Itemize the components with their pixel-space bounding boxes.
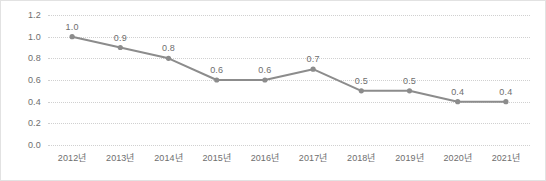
line-chart: 0.00.20.40.60.81.01.2 1.00.90.80.60.60.7…: [0, 0, 546, 181]
x-tick-label: 2016년: [251, 151, 280, 164]
x-tick-label: 2013년: [106, 151, 135, 164]
x-tick-label: 2021년: [492, 151, 521, 164]
data-point-marker: [214, 77, 219, 82]
data-point-marker: [311, 67, 316, 72]
x-tick-label: 2012년: [58, 151, 87, 164]
series-polyline: [72, 37, 506, 102]
data-point-marker: [455, 99, 460, 104]
y-tick-label: 0.8: [28, 53, 41, 63]
y-tick-label: 0.4: [28, 97, 41, 107]
y-axis: 0.00.20.40.60.81.01.2: [1, 15, 41, 145]
series-markers: [70, 34, 509, 104]
x-tick-label: 2014년: [154, 151, 183, 164]
data-point-marker: [359, 88, 364, 93]
y-tick-label: 0.6: [28, 75, 41, 85]
x-tick-label: 2017년: [299, 151, 328, 164]
y-tick-label: 0.0: [28, 140, 41, 150]
data-point-marker: [166, 56, 171, 61]
x-tick-label: 2018년: [347, 151, 376, 164]
data-point-marker: [262, 77, 267, 82]
data-point-marker: [70, 34, 75, 39]
y-tick-label: 1.2: [28, 10, 41, 20]
x-tick-label: 2015년: [202, 151, 231, 164]
y-tick-label: 1.0: [28, 32, 41, 42]
x-tick-label: 2020년: [443, 151, 472, 164]
x-tick-label: 2019년: [395, 151, 424, 164]
y-tick-label: 0.2: [28, 118, 41, 128]
x-axis: 2012년2013년2014년2015년2016년2017년2018년2019년…: [48, 151, 530, 171]
data-point-marker: [407, 88, 412, 93]
plot-area: 1.00.90.80.60.60.70.50.50.40.4: [48, 15, 530, 145]
gridline: [48, 145, 530, 146]
series-line: [48, 15, 530, 145]
data-point-marker: [118, 45, 123, 50]
data-point-marker: [503, 99, 508, 104]
